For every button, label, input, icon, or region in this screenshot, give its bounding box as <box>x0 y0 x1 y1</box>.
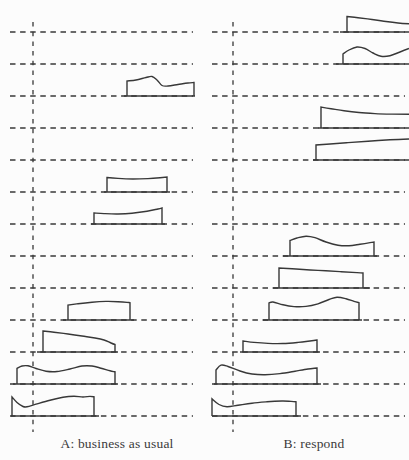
ridgeline-figure: A: business as usual B: respond <box>0 0 409 460</box>
panel-a-label: A: business as usual <box>60 436 173 452</box>
chart-canvas <box>0 0 409 460</box>
panel-b-label: B: respond <box>284 436 345 452</box>
